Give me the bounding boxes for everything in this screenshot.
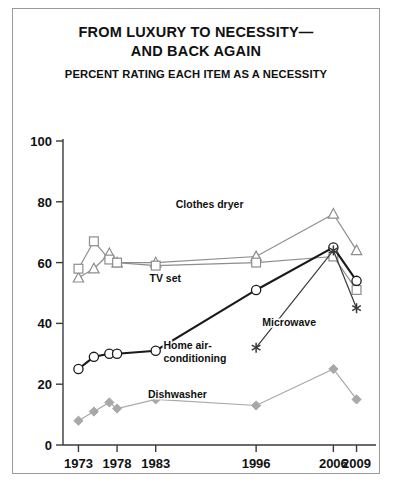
data-point-circle (151, 346, 160, 355)
series-clothes-dryer (73, 209, 362, 282)
data-point-triangle (73, 272, 83, 282)
data-point-circle (74, 364, 83, 373)
x-tick-label: 1983 (141, 456, 170, 471)
data-point-square (352, 286, 361, 295)
y-tick-label: 0 (45, 438, 52, 453)
data-point-diamond (352, 395, 361, 404)
series-label-text: Dishwasher (148, 388, 207, 400)
series-tv-set (74, 237, 361, 294)
data-point-circle (89, 352, 98, 361)
y-tick-label: 80 (38, 195, 52, 210)
series-label-dishwasher: DishwasherDishwasher (148, 388, 207, 400)
data-point-triangle (328, 209, 338, 219)
data-point-square (151, 261, 160, 270)
y-tick-label: 20 (38, 377, 52, 392)
series-label-text: conditioning (163, 352, 226, 364)
series-label-clothes-dryer: Clothes dryerClothes dryer (176, 198, 244, 210)
data-point-diamond (89, 407, 98, 416)
data-point-square (90, 237, 99, 246)
series-line (78, 214, 356, 278)
series-label-home-air-conditioning: Home air-Home air-conditioningconditioni… (163, 339, 226, 364)
series-label-tv-set: TV setTV set (150, 272, 182, 284)
x-tick-label: 1996 (242, 456, 271, 471)
series-label-text: TV set (150, 272, 182, 284)
line-chart: 020406080100197319781983199620062009Clot… (0, 0, 394, 490)
y-tick-label: 100 (30, 134, 52, 149)
data-point-circle (112, 349, 121, 358)
data-point-circle (252, 285, 261, 294)
data-point-triangle (351, 245, 361, 255)
series-line (78, 369, 356, 421)
data-point-square (252, 258, 261, 267)
data-point-square (113, 258, 122, 267)
x-tick-label: 2009 (342, 456, 371, 471)
series-label-text: Clothes dryer (176, 198, 244, 210)
data-point-diamond (329, 364, 338, 373)
series-label-microwave: MicrowaveMicrowave (262, 316, 316, 328)
data-point-circle (352, 276, 361, 285)
series-dishwasher (74, 364, 361, 425)
data-point-diamond (252, 401, 261, 410)
series-label-text: Home air- (163, 339, 212, 351)
series-line (256, 250, 356, 347)
y-tick-label: 60 (38, 256, 52, 271)
data-point-diamond (74, 416, 83, 425)
x-tick-label: 1978 (103, 456, 132, 471)
x-tick-label: 1973 (64, 456, 93, 471)
y-tick-label: 40 (38, 316, 52, 331)
data-point-asterisk (352, 303, 361, 313)
series-label-text: Microwave (262, 316, 316, 328)
data-point-square (74, 264, 83, 273)
